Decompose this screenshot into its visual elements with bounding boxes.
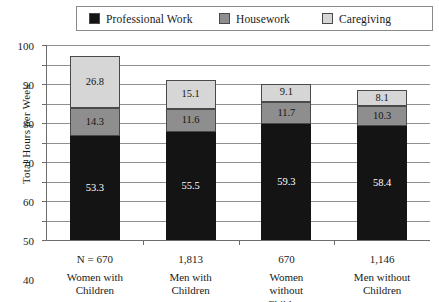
category-sample-size: 1,146 (330, 253, 434, 267)
y-axis-tick-label: 80 (23, 119, 34, 130)
legend-item-label: Housework (236, 13, 290, 25)
legend-item-caregiving: Caregiving (322, 13, 391, 25)
chart-legend: Professional Work Housework Caregiving (76, 6, 433, 31)
bar-stack[interactable]: 9.111.759.3 (261, 84, 311, 240)
x-axis-category-label: 1,813Men withChildren (139, 253, 243, 298)
bar-segment-housework[interactable]: 10.3 (357, 106, 407, 126)
x-axis-tick (143, 240, 144, 245)
x-axis-tick (334, 240, 335, 245)
category-name-line: Women (234, 271, 338, 285)
legend-item-label: Professional Work (106, 13, 192, 25)
plot-area: 010203040506070809010026.814.353.3N = 67… (46, 45, 430, 241)
y-axis-tick-label: 70 (23, 158, 34, 169)
y-axis-tick: 50 (42, 143, 47, 144)
category-sample-size: 670 (234, 253, 338, 267)
bar-segment-caregiving[interactable]: 26.8 (70, 56, 120, 108)
stacked-bar-chart: Total Hours per Week 0102030405060708090… (0, 36, 439, 302)
y-axis-tick: 90 (42, 65, 47, 66)
x-axis-category-label: N = 670Women withChildren (43, 253, 147, 298)
category-name-line: Children (330, 284, 434, 298)
category-name-line: Children (139, 284, 243, 298)
y-axis-tick: 30 (42, 182, 47, 183)
legend-item-housework: Housework (219, 13, 290, 25)
category-sample-size: 1,813 (139, 253, 243, 267)
category-name-line: Women with (43, 271, 147, 285)
category-sample-size: N = 670 (43, 253, 147, 267)
bar-segment-caregiving[interactable]: 15.1 (166, 80, 216, 109)
bar-stack[interactable]: 15.111.655.5 (166, 80, 216, 240)
bar-segment-professional-work[interactable]: 55.5 (166, 132, 216, 240)
y-axis-tick-label: 90 (23, 80, 34, 91)
bar-stack[interactable]: 26.814.353.3 (70, 56, 120, 240)
bar-segment-professional-work[interactable]: 53.3 (70, 136, 120, 240)
bar-segment-housework[interactable]: 11.6 (166, 109, 216, 132)
x-axis-category-label: 1,146Men withoutChildren (330, 253, 434, 298)
bar-segment-caregiving[interactable]: 8.1 (357, 90, 407, 106)
x-axis-category-label: 670WomenwithoutChildren (234, 253, 338, 302)
category-name-line: without (234, 284, 338, 298)
legend-swatch-icon (219, 13, 230, 24)
category-name-line: Men with (139, 271, 243, 285)
bar-segment-caregiving[interactable]: 9.1 (261, 84, 311, 102)
y-axis-tick: 70 (42, 104, 47, 105)
y-axis-tick: 20 (42, 201, 47, 202)
category-name-line: Children (43, 284, 147, 298)
y-axis-tick: 80 (42, 84, 47, 85)
bar-segment-housework[interactable]: 14.3 (70, 108, 120, 136)
bar-stack[interactable]: 8.110.358.4 (357, 90, 407, 240)
gridline (47, 45, 430, 46)
y-axis-tick-label: 60 (23, 197, 34, 208)
y-axis-tick: 10 (42, 221, 47, 222)
legend-swatch-icon (322, 13, 333, 24)
bar-segment-professional-work[interactable]: 58.4 (357, 126, 407, 240)
y-axis-tick: 100 (42, 45, 47, 46)
y-axis-tick-label: 40 (23, 275, 34, 286)
bar-segment-housework[interactable]: 11.7 (261, 102, 311, 125)
y-axis-tick-label: 50 (23, 236, 34, 247)
category-name-line: Men without (330, 271, 434, 285)
legend-item-professional-work: Professional Work (89, 13, 192, 25)
y-axis-tick: 60 (42, 123, 47, 124)
y-axis-tick-label: 100 (18, 41, 35, 52)
x-axis-tick (239, 240, 240, 245)
category-name-line: Children (234, 298, 338, 302)
legend-item-label: Caregiving (339, 13, 391, 25)
legend-swatch-icon (89, 13, 100, 24)
y-axis-tick: 0 (42, 240, 47, 241)
bar-segment-professional-work[interactable]: 59.3 (261, 124, 311, 240)
y-axis-tick: 40 (42, 162, 47, 163)
